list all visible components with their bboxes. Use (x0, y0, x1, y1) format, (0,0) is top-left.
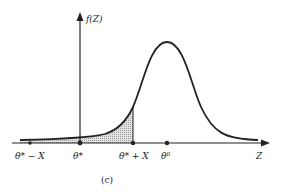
x-axis-label: Z (255, 151, 263, 161)
label-theta-star: θ* (73, 151, 83, 161)
label-theta-star-minus-x: θ* − X (15, 151, 45, 161)
point-theta-star (78, 141, 83, 146)
y-axis-arrow-icon (77, 12, 84, 21)
label-theta-zero: θ⁰ (161, 151, 170, 161)
y-axis-label: f(Z) (85, 14, 103, 24)
figure-caption: (c) (101, 175, 113, 185)
density-diagram: f(Z) Z θ* − X θ* θ* + X θ⁰ (c) (0, 0, 286, 196)
label-theta-star-plus-x: θ* + X (119, 151, 149, 161)
x-axis-arrow-icon (261, 140, 270, 147)
density-curve (20, 42, 258, 140)
point-theta-star-minus-x (28, 141, 32, 145)
point-theta-zero (165, 141, 169, 145)
point-theta-star-plus-x (131, 141, 135, 145)
